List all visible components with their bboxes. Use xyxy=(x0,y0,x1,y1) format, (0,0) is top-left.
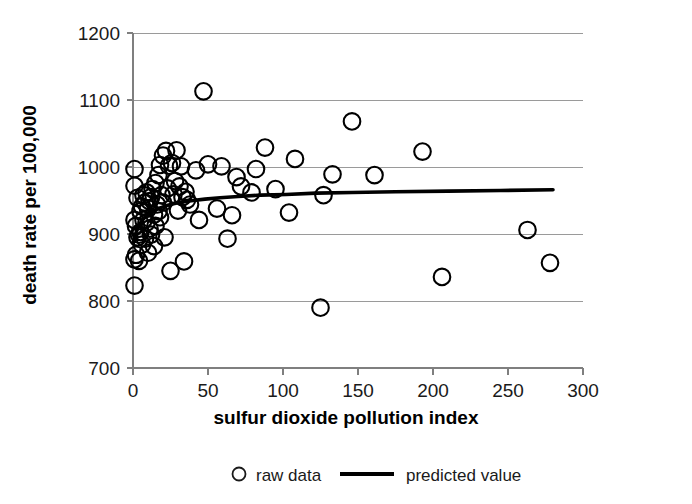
data-point xyxy=(126,161,143,178)
x-tick-label-200: 200 xyxy=(417,380,449,401)
legend-raw-data-label: raw data xyxy=(256,466,322,485)
x-tick-label-0: 0 xyxy=(128,380,139,401)
data-point xyxy=(312,299,329,316)
axes-group xyxy=(127,33,583,375)
legend-raw-data-icon xyxy=(233,468,246,481)
y-tick-label-1100: 1100 xyxy=(79,90,120,111)
data-point xyxy=(542,255,559,272)
data-point xyxy=(195,83,212,100)
y-tick-label-800: 800 xyxy=(88,291,120,312)
data-point xyxy=(434,269,451,286)
data-point xyxy=(224,207,241,224)
data-point xyxy=(281,204,298,221)
data-point xyxy=(414,143,431,160)
x-tick-label-150: 150 xyxy=(342,380,374,401)
data-point xyxy=(219,230,236,247)
y-tick-labels-group: 700800900100011001200 xyxy=(78,23,120,379)
x-tick-label-300: 300 xyxy=(567,380,599,401)
y-tick-label-1200: 1200 xyxy=(78,23,120,44)
data-point xyxy=(228,169,245,186)
x-tick-label-50: 50 xyxy=(197,380,218,401)
y-tick-label-900: 900 xyxy=(88,224,120,245)
chart-legend: raw data predicted value xyxy=(233,466,522,485)
data-point xyxy=(315,187,332,204)
data-point xyxy=(257,139,274,156)
data-point xyxy=(324,166,341,183)
data-point xyxy=(287,151,304,168)
data-point xyxy=(248,161,265,178)
x-tick-labels-group: 050100150200250300 xyxy=(128,380,599,401)
x-axis-title: sulfur dioxide pollution index xyxy=(214,407,479,428)
data-point xyxy=(366,167,383,184)
chart-canvas: 700800900100011001200 050100150200250300… xyxy=(0,0,692,504)
data-point xyxy=(519,222,536,239)
data-point xyxy=(126,277,143,294)
y-tick-label-1000: 1000 xyxy=(78,157,120,178)
x-tick-label-100: 100 xyxy=(267,380,299,401)
data-point xyxy=(344,113,361,130)
data-point xyxy=(176,253,193,270)
data-point xyxy=(191,212,208,229)
scatter-chart: 700800900100011001200 050100150200250300… xyxy=(0,0,692,504)
x-tick-label-250: 250 xyxy=(492,380,524,401)
y-tick-label-700: 700 xyxy=(88,358,120,379)
y-axis-title: death rate per 100,000 xyxy=(19,105,40,305)
legend-predicted-value-label: predicted value xyxy=(406,466,521,485)
